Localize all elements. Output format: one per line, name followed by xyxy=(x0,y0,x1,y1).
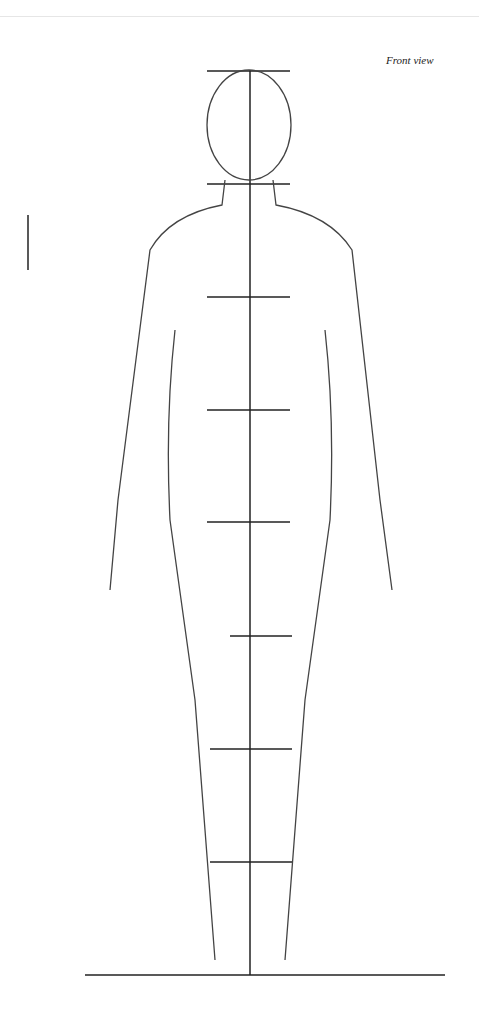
proportion-diagram xyxy=(0,0,479,1013)
figure-outline xyxy=(110,70,392,960)
